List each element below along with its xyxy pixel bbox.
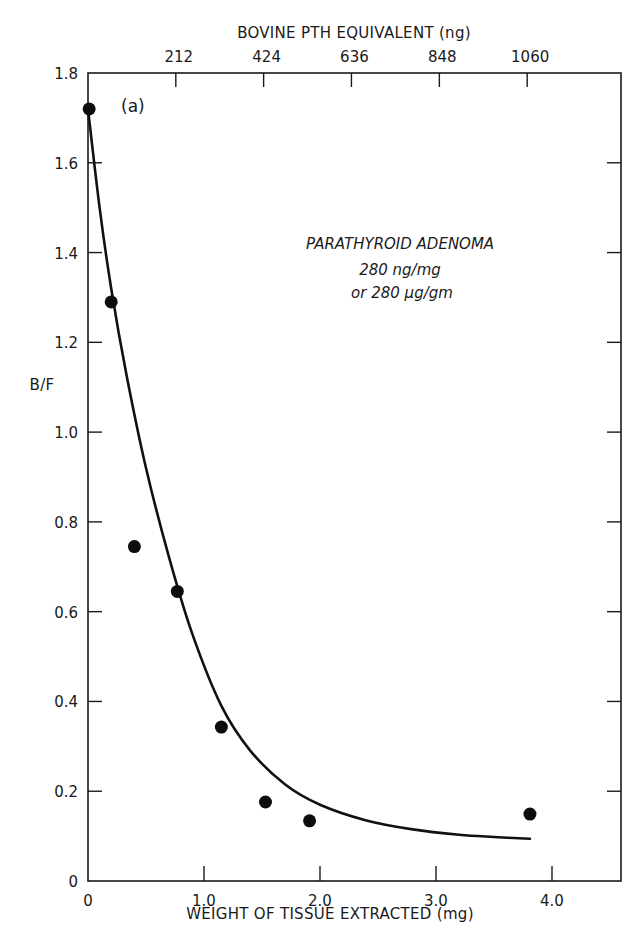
y-tick-label: 1.4 — [54, 245, 78, 263]
data-points — [83, 102, 537, 827]
axis-ticks: 01.02.03.04.0212424636848106000.20.40.60… — [54, 48, 621, 910]
y-tick-label: 0 — [68, 873, 78, 891]
chart: 01.02.03.04.0212424636848106000.20.40.60… — [0, 0, 644, 949]
y-tick-label: 0.2 — [54, 783, 78, 801]
y-tick-label: 1.6 — [54, 155, 78, 173]
y-tick-label: 1.2 — [54, 334, 78, 352]
y-tick-label: 0.6 — [54, 604, 78, 622]
data-point — [523, 808, 536, 821]
annotation-line-2: or 280 µg/gm — [351, 284, 453, 302]
data-point — [83, 102, 96, 115]
y-tick-label: 0.4 — [54, 693, 78, 711]
x2-tick-label: 636 — [340, 48, 369, 66]
annotation-title: PARATHYROID ADENOMA — [306, 235, 494, 253]
data-point — [259, 795, 272, 808]
data-point — [128, 540, 141, 553]
x-tick-label: 4.0 — [540, 892, 564, 910]
panel-label: (a) — [121, 96, 145, 116]
plot-frame — [88, 73, 621, 881]
top-axis-title: BOVINE PTH EQUIVALENT (ng) — [237, 24, 471, 42]
x2-tick-label: 424 — [252, 48, 281, 66]
fitted-curve — [88, 109, 530, 839]
y-tick-label: 1.0 — [54, 424, 78, 442]
data-point — [105, 295, 118, 308]
data-point — [171, 585, 184, 598]
x2-tick-label: 848 — [428, 48, 457, 66]
data-point — [215, 721, 228, 734]
x2-tick-label: 212 — [164, 48, 193, 66]
annotation-line-1: 280 ng/mg — [359, 261, 441, 279]
data-point — [303, 814, 316, 827]
y-axis-title: B/F — [30, 376, 55, 394]
y-tick-label: 1.8 — [54, 65, 78, 83]
x-axis-title: WEIGHT OF TISSUE EXTRACTED (mg) — [186, 905, 474, 923]
y-tick-label: 0.8 — [54, 514, 78, 532]
x-tick-label: 0 — [83, 892, 93, 910]
x2-tick-label: 1060 — [511, 48, 549, 66]
